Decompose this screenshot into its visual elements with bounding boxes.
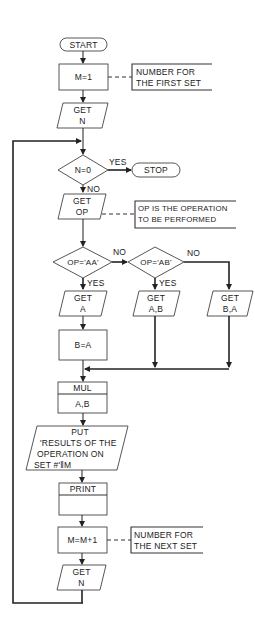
put-line4: SET #'‖M xyxy=(34,460,71,470)
op-ab-no-label: NO xyxy=(187,248,200,258)
put-output: PUT 'RESULTS OF THE OPERATION ON SET #'‖… xyxy=(26,426,128,470)
init-label: M=1 xyxy=(75,72,92,82)
put-line2: 'RESULTS OF THE xyxy=(40,438,117,448)
get-op-annotation: OP IS THE OPERATION TO BE PERFORMED xyxy=(135,201,236,228)
op-aa-yes-label: YES xyxy=(87,278,105,288)
get-a-input: GET A xyxy=(59,291,107,316)
get-op-note-line1: OP IS THE OPERATION xyxy=(138,204,228,213)
op-ab-decision: OP='AB' xyxy=(128,247,184,278)
get-ab-line2: A,B xyxy=(149,304,163,314)
get-n2-line2: N xyxy=(78,578,84,588)
ab-no-connector xyxy=(184,262,229,289)
op-ab-label: OP='AB' xyxy=(140,258,172,267)
get-n-input: GET N xyxy=(57,103,108,128)
n-zero-label: N=0 xyxy=(75,165,92,175)
mul-args: A,B xyxy=(75,399,89,409)
assign-b-process: B=A xyxy=(59,330,107,360)
increment-note-line1: NUMBER FOR xyxy=(134,530,193,540)
get-ba-line2: B,A xyxy=(223,304,237,314)
get-op-line1: GET xyxy=(73,196,91,206)
get-ab-line1: GET xyxy=(147,293,165,303)
put-line3: OPERATION ON xyxy=(37,449,104,459)
mul-name: MUL xyxy=(73,383,92,393)
init-note-line2: THE FIRST SET xyxy=(136,78,201,88)
mul-subroutine: MUL A,B xyxy=(58,382,107,413)
increment-annotation: NUMBER FOR THE NEXT SET xyxy=(131,527,203,553)
op-aa-no-label: NO xyxy=(113,247,126,257)
stop-label: STOP xyxy=(144,165,168,175)
start-terminal: START xyxy=(60,38,107,51)
init-annotation: NUMBER FOR THE FIRST SET xyxy=(132,64,212,90)
init-note-line1: NUMBER FOR xyxy=(136,67,195,77)
get-ba-input: GET B,A xyxy=(207,291,253,316)
n-zero-yes-label: YES xyxy=(109,157,127,167)
get-a-line1: GET xyxy=(74,293,92,303)
print-label: PRINT xyxy=(70,484,97,494)
stop-terminal: STOP xyxy=(132,163,180,177)
get-n-line1: GET xyxy=(73,105,91,115)
get-op-input: GET OP xyxy=(58,194,106,219)
assign-b-label: B=A xyxy=(75,340,92,350)
get-op-note-line2: TO BE PERFORMED xyxy=(138,215,216,224)
get-ab-input: GET A,B xyxy=(133,291,180,316)
increment-process: M=M+1 xyxy=(58,527,107,553)
op-aa-decision: OP='AA' xyxy=(53,247,112,278)
get-n2-line1: GET xyxy=(72,567,90,577)
get-a-line2: A xyxy=(80,304,86,314)
n-zero-no-label: NO xyxy=(87,184,100,194)
get-op-line2: OP xyxy=(76,207,89,217)
put-line1: PUT xyxy=(71,427,89,437)
get-n-input-2: GET N xyxy=(57,565,106,590)
get-ba-line1: GET xyxy=(221,293,239,303)
init-process: M=1 xyxy=(59,64,108,90)
increment-label: M=M+1 xyxy=(68,535,98,545)
op-ab-yes-label: YES xyxy=(159,278,177,288)
increment-note-line2: THE NEXT SET xyxy=(134,541,197,551)
start-label: START xyxy=(69,40,97,50)
op-aa-label: OP='AA' xyxy=(67,258,99,267)
get-n-line2: N xyxy=(79,116,85,126)
n-zero-decision: N=0 xyxy=(58,155,108,185)
print-subroutine: PRINT xyxy=(59,483,107,515)
